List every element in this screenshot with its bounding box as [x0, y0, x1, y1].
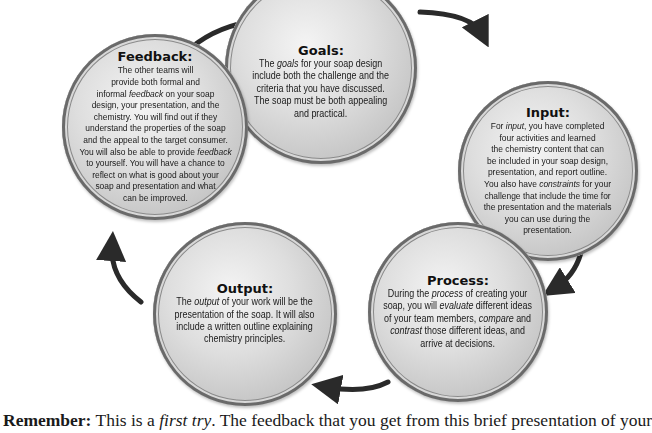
node-body-line: You also have constraints for your: [484, 178, 612, 190]
node-body-line: include both the challenge and the: [253, 70, 390, 82]
node-title: Process:: [427, 274, 489, 288]
node-title: Goals:: [298, 44, 344, 58]
node-title: Feedback:: [118, 50, 193, 64]
node-body-line: four activities and learned: [484, 132, 612, 144]
node-body-line: chemistry. You will find out if they: [79, 111, 231, 123]
node-body-line: the chemistry content that can: [484, 143, 612, 155]
footer-remember: Remember: This is a first try. The feedb…: [3, 410, 643, 431]
node-body-line: and practical.: [253, 108, 390, 120]
node-body-line: For input, you have completed: [484, 120, 612, 132]
node-body: The output of your work will be theprese…: [175, 296, 315, 346]
node-body-line: reflect on what is good about your: [79, 169, 231, 181]
node-body-line: to yourself. You will have a chance to: [79, 157, 231, 169]
node-body-line: chemistry principles.: [175, 333, 315, 345]
node-body-line: design, your presentation, and the: [79, 99, 231, 111]
arrow-process-to-output: [326, 382, 388, 390]
node-body-line: challenge that include the time for: [484, 190, 612, 202]
node-body-line: informal feedback on your soap: [79, 88, 231, 100]
node-body-line: criteria that you have discussed.: [253, 83, 390, 95]
node-body-line: The output of your work will be the: [175, 296, 315, 308]
node-output: Output: The output of your work will be …: [153, 222, 337, 406]
node-body-line: During the process of creating your: [384, 288, 533, 300]
node-body-line: presentation of the soap. It will also: [175, 309, 315, 321]
node-body-line: You will also be able to provide feedbac…: [79, 146, 231, 158]
arrow-output-to-feedback: [112, 246, 141, 302]
node-feedback: Feedback: The other teams willprovide bo…: [62, 34, 248, 220]
node-body-line: the presentation and the materials: [484, 201, 612, 213]
arrow-goals-to-input: [420, 12, 482, 34]
node-body-line: you can use during the: [484, 213, 612, 225]
node-body-line: The soap must be both appealing: [253, 95, 390, 107]
node-body-line: provide both formal and: [79, 76, 231, 88]
node-body: The goals for your soap designinclude bo…: [253, 58, 390, 120]
node-body-line: understand the properties of the soap: [79, 122, 231, 134]
node-body-line: arrive at decisions.: [384, 338, 533, 350]
node-body-line: soap and presentation and what: [79, 180, 231, 192]
node-body-line: include a written outline explaining: [175, 321, 315, 333]
node-body-line: of your team members, compare and: [384, 313, 533, 325]
node-body: For input, you have completedfour activi…: [484, 120, 612, 236]
node-body-line: can be improved.: [79, 192, 231, 204]
node-title: Output:: [217, 282, 274, 296]
node-body-line: and the appeal to the target consumer.: [79, 134, 231, 146]
node-body-line: contrast those different ideas, and: [384, 325, 533, 337]
node-process: Process: During the process of creating …: [368, 222, 548, 402]
node-body: During the process of creating yoursoap,…: [384, 288, 533, 350]
node-body-line: presentation, and report outline.: [484, 166, 612, 178]
node-title: Input:: [526, 106, 570, 120]
footer-text-before: This is a: [91, 410, 159, 430]
node-body-line: The other teams will: [79, 64, 231, 76]
node-body-line: The goals for your soap design: [253, 58, 390, 70]
node-body: The other teams willprovide both formal …: [79, 64, 231, 203]
node-body-line: be included in your soap design,: [484, 155, 612, 167]
node-body-line: soap, you will evaluate different ideas: [384, 300, 533, 312]
footer-label: Remember:: [3, 410, 91, 430]
footer-text-after: . The feedback that you get from this br…: [211, 410, 652, 430]
footer-italic: first try: [159, 410, 211, 430]
